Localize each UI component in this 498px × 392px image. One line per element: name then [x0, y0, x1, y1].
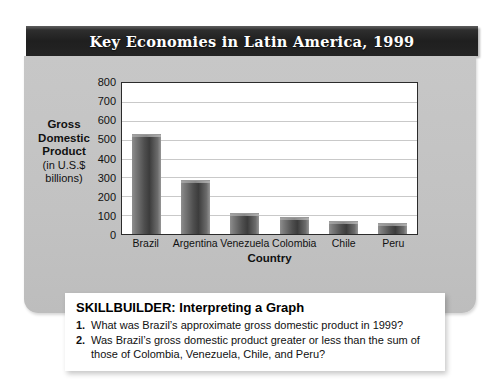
x-tick-label-colombia: Colombia	[270, 237, 320, 249]
x-tick-label-brazil: Brazil	[121, 237, 171, 249]
question-text: What was Brazil’s approximate gross dome…	[91, 318, 434, 332]
bar-slot	[122, 83, 171, 234]
y-tick-label: 500	[82, 133, 116, 145]
x-tick-label-peru: Peru	[369, 237, 419, 249]
plot-wrapper: 0100200300400500600700800	[121, 82, 418, 235]
question-number: 1.	[76, 318, 91, 332]
x-tick-label-argentina: Argentina	[171, 237, 221, 249]
bar-brazil	[132, 134, 161, 234]
bar-slot	[319, 83, 368, 234]
bar-series	[122, 83, 417, 234]
x-axis-title: Country	[121, 252, 418, 264]
question-text: Was Brazil’s gross domestic product grea…	[91, 333, 434, 361]
skillbuilder-question: 1.What was Brazil’s approximate gross do…	[76, 318, 434, 332]
y-tick-label: 300	[82, 172, 116, 184]
chart-title-bar: Key Economies in Latin America, 1999	[26, 26, 478, 56]
skillbuilder-box: SKILLBUILDER: Interpreting a Graph 1.Wha…	[65, 293, 445, 371]
bar-slot	[220, 83, 269, 234]
chart-title: Key Economies in Latin America, 1999	[90, 33, 415, 50]
question-number: 2.	[76, 333, 91, 347]
x-tick-label-chile: Chile	[319, 237, 369, 249]
skillbuilder-question: 2.Was Brazil’s gross domestic product gr…	[76, 333, 434, 361]
bar-slot	[171, 83, 220, 234]
chart-figure: Key Economies in Latin America, 1999 Gro…	[0, 0, 498, 392]
y-tick-label: 200	[82, 191, 116, 203]
bar-argentina	[181, 180, 210, 234]
bar-peru	[378, 223, 407, 234]
y-tick-label: 600	[82, 114, 116, 126]
y-tick-label: 800	[82, 76, 116, 88]
y-tick-label: 700	[82, 95, 116, 107]
plot-area	[121, 82, 418, 235]
bar-slot	[270, 83, 319, 234]
y-tick-label: 0	[82, 229, 116, 241]
skillbuilder-questions: 1.What was Brazil’s approximate gross do…	[76, 318, 434, 361]
bar-slot	[368, 83, 417, 234]
bar-venezuela	[230, 213, 259, 234]
y-tick-label: 100	[82, 210, 116, 222]
x-tick-labels: BrazilArgentinaVenezuelaColombiaChilePer…	[121, 237, 418, 249]
bar-colombia	[280, 217, 309, 234]
y-tick-label: 400	[82, 153, 116, 165]
bar-chile	[329, 221, 358, 234]
x-tick-label-venezuela: Venezuela	[220, 237, 270, 249]
skillbuilder-heading: SKILLBUILDER: Interpreting a Graph	[76, 300, 434, 315]
